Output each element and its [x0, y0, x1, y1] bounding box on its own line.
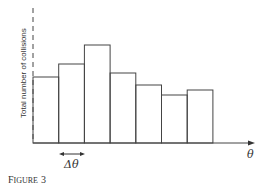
histogram-bar: [59, 64, 85, 143]
delta-theta-marker: [59, 152, 85, 156]
x-axis-label: θ: [247, 148, 254, 161]
histogram-bar: [136, 85, 162, 143]
x-axis-arrow-icon: [248, 141, 255, 146]
histogram-bar: [33, 77, 59, 143]
left-arrow-icon: [59, 152, 64, 156]
histogram-bar: [187, 90, 213, 143]
right-arrow-icon: [80, 152, 85, 156]
y-axis-label: Total number of collisions: [19, 28, 28, 118]
histogram-bar: [84, 45, 110, 143]
delta-theta-label: Δθ: [63, 158, 79, 171]
histogram-bars: [33, 45, 213, 143]
histogram-figure: Total number of collisions Δθ θ FIGURE3: [0, 0, 272, 193]
histogram-bar: [110, 73, 136, 143]
figure-caption: FIGURE3: [8, 174, 46, 185]
histogram-bar: [162, 95, 188, 143]
